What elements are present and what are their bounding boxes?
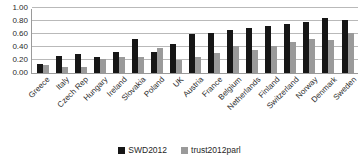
y-tick-label: 0.60 [12,30,28,38]
x-tick-label: Poland [143,75,167,99]
bar-group [33,9,52,73]
legend-label: trust2012parl [191,146,241,155]
bar-trust2012parl [309,39,315,73]
y-tick-label: 0.00 [12,69,28,77]
y-tick-label: 0.40 [12,43,28,51]
bar-group [128,9,147,73]
bar-trust2012parl [195,57,201,73]
bar-group [243,9,262,73]
bar-trust2012parl [233,46,239,73]
legend-swatch-black [118,147,125,154]
legend-item: SWD2012 [118,146,167,155]
bar-group [300,9,319,73]
y-tick-label: 1.00 [12,4,28,12]
bar-trust2012parl [119,57,125,73]
bar-group [338,9,357,73]
bar-trust2012parl [290,42,296,73]
y-tick-label: 0.20 [12,56,28,64]
bars-layer [32,9,358,73]
plot-area [31,9,358,74]
x-tick-label: UK [172,75,186,89]
bar-group [224,9,243,73]
legend-item: trust2012parl [181,146,241,155]
bar-group [166,9,185,73]
bar-trust2012parl [138,57,144,73]
x-tick-label: Greece [27,75,52,100]
bar-trust2012parl [157,48,163,73]
bar-trust2012parl [176,60,182,73]
bar-trust2012parl [348,33,354,73]
bar-trust2012parl [62,67,68,73]
bar-trust2012parl [43,65,49,73]
bar-trust2012parl [214,53,220,73]
x-tick-label: Austria [181,75,205,99]
bar-group [205,9,224,73]
bar-group [52,9,71,73]
y-axis: 1.000.800.600.400.200.00 [0,4,30,74]
x-axis: GreeceItalyCzech RepHungaryIrelandSlovak… [31,75,358,137]
gridline [32,7,358,8]
bar-trust2012parl [81,67,87,74]
bar-group [186,9,205,73]
bar-group [109,9,128,73]
bar-group [262,9,281,73]
bar-group [147,9,166,73]
bar-trust2012parl [271,46,277,73]
bar-group [319,9,338,73]
y-tick-label: 0.80 [12,17,28,25]
legend-label: SWD2012 [128,146,167,155]
bar-group [281,9,300,73]
bar-group [90,9,109,73]
bar-group [71,9,90,73]
bar-trust2012parl [100,59,106,73]
bar-trust2012parl [252,50,258,73]
legend-swatch-gray [181,147,188,154]
chart-legend: SWD2012trust2012parl [0,146,359,155]
bar-trust2012parl [328,40,334,73]
bar-chart: 1.000.800.600.400.200.00 GreeceItalyCzec… [0,0,359,167]
